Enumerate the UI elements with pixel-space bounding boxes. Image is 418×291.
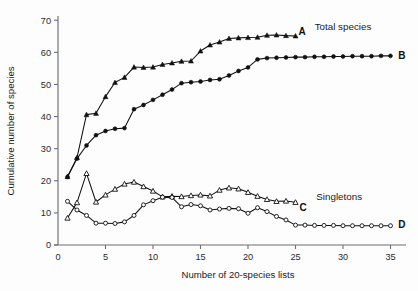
x-tick-label-5: 5 [103,252,108,262]
series-D-point-15 [208,208,212,212]
series-C-point-5 [112,187,117,192]
series-B-point-16 [218,77,222,81]
series-D-point-7 [132,213,136,217]
series-D-point-31 [360,224,364,228]
series-B-point-9 [151,98,155,102]
series-C-point-2 [84,171,89,176]
series-label-C: C [299,202,306,213]
x-tick-label-35: 35 [385,252,395,262]
series-B-point-20 [256,57,260,61]
series-B-point-7 [132,107,136,111]
y-tick-label-70: 70 [41,16,51,26]
series-D-point-10 [161,195,165,199]
series-B-point-6 [123,126,127,130]
series-D-point-21 [265,210,269,214]
series-B-point-10 [161,93,165,97]
series-C-point-1 [74,200,79,205]
series-line-A [68,35,296,177]
series-D-point-3 [94,221,98,225]
series-C-point-7 [131,179,136,184]
series-D-point-34 [389,224,393,228]
series-B-point-22 [275,56,279,60]
series-C-point-8 [141,184,146,189]
series-B-point-19 [246,65,250,69]
series-D-point-28 [332,223,336,227]
series-D-point-30 [351,224,355,228]
series-B-point-25 [303,55,307,59]
x-tick-label-25: 25 [290,252,300,262]
series-D-point-22 [275,214,279,218]
series-B-point-21 [265,56,269,60]
x-tick-label-0: 0 [55,252,60,262]
series-B-point-15 [208,78,212,82]
series-A-point-5 [113,80,118,85]
series-B-point-5 [113,127,117,131]
series-B-point-24 [294,55,298,59]
series-B-point-30 [351,54,355,58]
series-C-point-0 [65,215,70,220]
series-B-point-34 [389,54,393,58]
series-B-point-23 [284,56,288,60]
series-D-point-18 [237,207,241,211]
x-tick-label-15: 15 [195,252,205,262]
x-tick-label-20: 20 [243,252,253,262]
series-B-point-3 [94,133,98,137]
series-B-point-12 [180,81,184,85]
series-B-point-33 [379,54,383,58]
series-B-point-8 [142,103,146,107]
x-axis-title: Number of 20-species lists [181,269,294,280]
series-D-point-23 [284,218,288,222]
series-D-point-27 [322,223,326,227]
series-D-point-33 [379,224,383,228]
series-D-point-25 [303,223,307,227]
y-tick-label-40: 40 [41,112,51,122]
series-B-point-26 [313,55,317,59]
series-B-point-31 [360,54,364,58]
series-D-point-6 [123,220,127,224]
series-D-point-14 [199,204,203,208]
series-label-D: D [398,219,405,230]
series-D-point-16 [218,207,222,211]
series-label-A: A [299,26,306,37]
series-D-point-20 [256,206,260,210]
series-A-point-14 [198,49,203,54]
series-B-point-11 [170,88,174,92]
series-B-point-28 [332,55,336,59]
series-D-point-4 [104,221,108,225]
y-tick-label-50: 50 [41,80,51,90]
series-B-point-2 [85,144,89,148]
y-tick-label-60: 60 [41,48,51,58]
series-label-B: B [398,50,405,61]
series-B-point-18 [237,69,241,73]
series-B-point-1 [75,157,79,161]
x-tick-label-30: 30 [338,252,348,262]
series-D-point-0 [66,199,70,203]
series-D-point-26 [313,223,317,227]
x-tick-label-10: 10 [148,252,158,262]
y-tick-label-10: 10 [41,208,51,218]
y-tick-label-20: 20 [41,176,51,186]
series-D-point-9 [151,199,155,203]
series-D-point-2 [85,213,89,217]
chart-canvas: 01020304050607005101520253035 ABCDTotal … [0,0,418,291]
series-B-point-17 [227,73,231,77]
series-C-point-4 [103,192,108,197]
series-D-point-19 [246,211,250,215]
y-tick-label-30: 30 [41,144,51,154]
ticks-group [54,20,391,249]
series-D-point-17 [227,206,231,210]
series-D-point-24 [294,223,298,227]
species-accumulation-figure: 01020304050607005101520253035 ABCDTotal … [0,0,418,291]
y-tick-label-0: 0 [46,240,51,250]
annotations-group: ABCDTotal speciesSingletons [299,21,406,230]
series-D-point-1 [75,208,79,212]
series-D-point-11 [170,195,174,199]
y-axis-title: Cumulative number of species [5,66,16,195]
series-B-point-14 [199,80,203,84]
group-label-total-species: Total species [315,21,372,32]
series-B-point-4 [104,129,108,133]
series-B-point-29 [341,55,345,59]
series-D-point-29 [341,224,345,228]
series-B-point-32 [370,54,374,58]
series-D-point-13 [189,203,193,207]
